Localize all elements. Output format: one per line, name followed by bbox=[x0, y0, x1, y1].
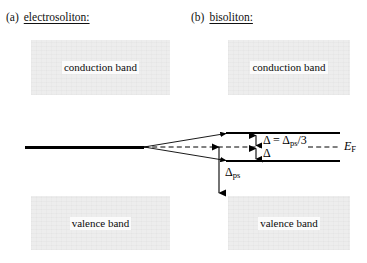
delta-ps-subscript: ps bbox=[233, 170, 241, 180]
delta-lower-label: Δ bbox=[262, 147, 272, 160]
delta-lower-label-text: Δ bbox=[263, 146, 271, 160]
fermi-level-subscript: F bbox=[351, 144, 356, 154]
split-arrow-upper bbox=[144, 134, 226, 148]
delta-ps-symbol: Δ bbox=[225, 165, 233, 179]
fermi-level-label: EF bbox=[344, 140, 356, 156]
delta-upper-label-tail: /3 bbox=[297, 133, 306, 147]
lower-bisoliton-level bbox=[226, 160, 340, 162]
figure-canvas: (a)electrosoliton: (b)bisoliton: conduct… bbox=[0, 0, 367, 263]
delta-upper-label-head: Δ = Δ bbox=[263, 133, 290, 147]
delta-ps-label: Δps bbox=[225, 166, 240, 182]
split-arrow-lower bbox=[144, 147, 226, 161]
